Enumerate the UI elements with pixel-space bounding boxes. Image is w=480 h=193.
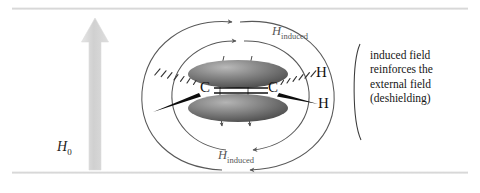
caption-brace (354, 44, 361, 140)
induced-field-label-top: Hinduced (272, 24, 308, 41)
caption-line-1: induced field (370, 48, 476, 62)
external-field-label: H0 (57, 139, 72, 157)
induced-field-symbol-top: H (272, 24, 281, 38)
atom-label-carbon-left: C (200, 79, 210, 96)
induced-field-subscript-top: induced (281, 31, 308, 41)
caption-line-2: reinforces the (370, 62, 476, 76)
induced-field-subscript-bottom: induced (227, 155, 254, 165)
caption-text: induced field reinforces the external fi… (370, 48, 476, 106)
atom-label-carbon-right: C (268, 79, 278, 96)
external-field-subscript: 0 (67, 147, 72, 157)
induced-field-symbol-bottom: H (218, 148, 227, 162)
orbital-lobe-icon-bottom (188, 94, 288, 122)
induced-field-label-bottom: Hinduced (218, 148, 254, 165)
caption-line-3: external field (370, 77, 476, 91)
figure-canvas: H0 Hinduced Hinduced C C H H induced fie… (0, 0, 480, 193)
external-field-symbol: H (57, 139, 67, 154)
double-bond-icon (214, 88, 268, 93)
external-field-arrow-icon (82, 18, 109, 170)
caption-line-4: (deshielding) (370, 91, 476, 105)
atom-label-hydrogen-upper-right: H (316, 64, 327, 81)
atom-label-hydrogen-lower-right: H (318, 95, 329, 112)
